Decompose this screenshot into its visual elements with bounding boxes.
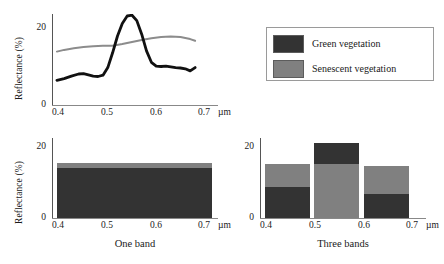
three-bands-bar-3-green <box>364 194 409 218</box>
legend-swatch-senescent-vegetation <box>273 60 304 78</box>
three-bands-x-tick-3: 0.7 <box>396 220 428 230</box>
legend-label-senescent-vegetation: Senescent vegetation <box>312 63 396 74</box>
one-band-x-tick-3: 0.7 <box>188 220 220 230</box>
spectra-plot: Reflectance (%) 20 0 0.4 0.5 0.6 0.7 µm <box>0 0 232 124</box>
legend-item-senescent-vegetation: Senescent vegetation <box>273 56 433 81</box>
three-bands-x-tick-1: 0.5 <box>299 220 331 230</box>
spectra-x-tick-1: 0.5 <box>91 107 123 117</box>
one-band-x-tick-0: 0.4 <box>42 220 74 230</box>
three-bands-x-unit-label: µm <box>426 220 439 230</box>
spectra-x-axis-line <box>52 105 218 106</box>
one-band-x-tick-2: 0.6 <box>140 220 172 230</box>
three-bands-x-tick-2: 0.6 <box>348 220 380 230</box>
spectra-x-tick-2: 0.6 <box>140 107 172 117</box>
three-bands-bar-1-senescent <box>265 164 310 187</box>
spectra-y-axis-label: Reflectance (%) <box>14 37 24 100</box>
one-band-x-axis-line <box>52 218 218 219</box>
spectra-svg <box>52 14 217 105</box>
three-bands-bar-1 <box>265 164 310 218</box>
three-bands-bar-1-green <box>265 187 310 218</box>
legend: Green vegetation Senescent vegetation <box>266 27 434 81</box>
legend-swatch-green-vegetation <box>273 35 304 53</box>
legend-item-green-vegetation: Green vegetation <box>273 31 433 56</box>
legend-label-green-vegetation: Green vegetation <box>312 38 381 49</box>
spectra-curves-area <box>52 14 217 105</box>
senescent-vegetation-curve <box>57 37 195 52</box>
three-bands-plot: 20 0 0.4 0.5 0.6 0.7 µm Three bands <box>232 128 444 264</box>
three-bands-bar-3-senescent <box>364 166 409 194</box>
one-band-title: One band <box>52 238 218 249</box>
one-band-x-tick-1: 0.5 <box>91 220 123 230</box>
one-band-y-tick-20: 20 <box>24 141 46 151</box>
spectra-x-unit-label: µm <box>218 107 231 117</box>
three-bands-title: Three bands <box>260 238 426 249</box>
three-bands-x-axis-line <box>260 218 426 219</box>
three-bands-x-tick-0: 0.4 <box>250 220 282 230</box>
three-bands-bar-2-senescent <box>314 164 359 218</box>
three-bands-bar-2-green <box>314 143 359 164</box>
three-bands-bar-2 <box>314 143 359 218</box>
three-bands-bars-area <box>260 138 425 218</box>
one-band-bar-green <box>57 168 212 218</box>
spectra-x-tick-3: 0.7 <box>188 107 220 117</box>
one-band-plot: Reflectance (%) 20 0 0.4 0.5 0.6 0.7 µm … <box>0 128 232 264</box>
spectra-y-tick-20: 20 <box>24 22 46 32</box>
three-bands-y-tick-20: 20 <box>232 141 254 151</box>
three-bands-bar-3 <box>364 166 409 218</box>
one-band-x-unit-label: µm <box>218 220 231 230</box>
spectra-x-tick-0: 0.4 <box>42 107 74 117</box>
one-band-bars-area <box>52 138 217 218</box>
one-band-y-axis-label: Reflectance (%) <box>14 161 24 224</box>
